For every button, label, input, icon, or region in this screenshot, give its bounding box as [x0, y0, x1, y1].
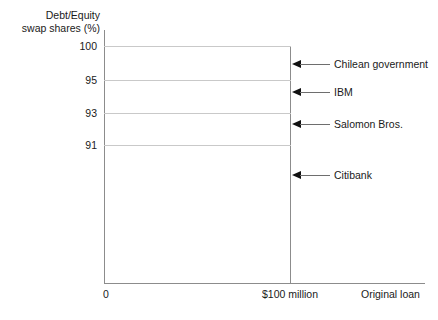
y-tick-label-93: 93 [37, 108, 97, 119]
annotation-ibm: IBM [292, 85, 353, 99]
debt-equity-swap-chart: Debt/Equity swap shares (%) 100 95 93 91… [0, 0, 438, 320]
annotation-citibank: Citibank [292, 168, 372, 182]
left-arrow-icon [292, 120, 330, 129]
gridline-91 [104, 145, 291, 146]
y-tick-label-91: 91 [37, 140, 97, 151]
gridline-95 [104, 80, 291, 81]
x-tick-label-hundred: $100 million [262, 288, 318, 300]
x-axis-original-loan-label: Original loan [361, 288, 420, 300]
x-axis-line [104, 283, 425, 284]
left-arrow-icon [292, 88, 330, 97]
annotation-label-chilean-government: Chilean government [334, 58, 428, 70]
annotation-salomon-bros: Salomon Bros. [292, 117, 403, 131]
x-tick-label-zero: 0 [103, 288, 109, 300]
original-loan-boundary-line [290, 46, 291, 284]
y-axis-title-line1: Debt/Equity [0, 9, 100, 22]
annotation-chilean-government: Chilean government [292, 57, 428, 71]
left-arrow-icon [292, 60, 330, 69]
y-axis-line [104, 30, 105, 284]
gridline-93 [104, 113, 291, 114]
y-tick-label-95: 95 [37, 75, 97, 86]
y-axis-title: Debt/Equity swap shares (%) [0, 9, 100, 35]
gridline-100 [104, 46, 291, 47]
left-arrow-icon [292, 171, 330, 180]
annotation-label-salomon-bros: Salomon Bros. [334, 118, 403, 130]
annotation-label-ibm: IBM [334, 86, 353, 98]
y-axis-title-line2: swap shares (%) [0, 22, 100, 35]
y-tick-label-100: 100 [37, 41, 97, 52]
annotation-label-citibank: Citibank [334, 169, 372, 181]
